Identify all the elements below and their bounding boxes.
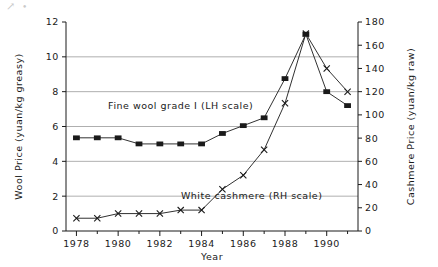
x-tick-label-1990: 1990	[313, 238, 340, 249]
marker-square-0-12	[323, 89, 330, 94]
series-line-0	[76, 34, 347, 144]
right-tick-label-0: 0	[365, 225, 372, 236]
left-tick-label-6: 6	[52, 121, 59, 132]
left-tick-label-8: 8	[52, 86, 59, 97]
x-tick-label-1982: 1982	[147, 238, 174, 249]
marker-cross-1-10	[282, 100, 288, 106]
series-annotation-1: White cashmere (RH scale)	[181, 190, 322, 201]
marker-square-0-5	[177, 142, 184, 147]
right-tick-label-80: 80	[365, 133, 378, 144]
right-tick-label-40: 40	[365, 179, 378, 190]
marker-cross-1-8	[240, 172, 246, 178]
x-tick-label-1986: 1986	[230, 238, 257, 249]
marker-square-0-13	[344, 103, 351, 108]
price-line-chart: 0246810120204060801001201401601801978198…	[0, 0, 438, 267]
series-annotation-0: Fine wool grade I (LH scale)	[108, 100, 253, 111]
x-tick-label-1978: 1978	[63, 238, 90, 249]
y2-axis-title: Cashmere Price (yuan/kg raw)	[405, 48, 416, 205]
right-tick-label-140: 140	[365, 63, 385, 74]
y-axis-title: Wool Price (yuan/kg greasy)	[13, 53, 24, 199]
right-tick-label-20: 20	[365, 202, 378, 213]
left-tick-label-4: 4	[52, 156, 59, 167]
marker-square-0-3	[136, 142, 143, 147]
right-tick-label-60: 60	[365, 156, 378, 167]
x-tick-label-1988: 1988	[272, 238, 299, 249]
marker-square-0-8	[240, 123, 247, 128]
x-tick-label-1984: 1984	[188, 238, 215, 249]
marker-square-0-2	[115, 135, 122, 140]
marker-square-0-6	[198, 142, 205, 147]
marker-square-0-10	[282, 76, 289, 81]
scan-artifact-mark: ↗	[6, 0, 15, 13]
marker-cross-1-12	[324, 65, 330, 71]
marker-cross-1-9	[261, 147, 267, 153]
marker-square-0-4	[156, 142, 163, 147]
marker-square-0-9	[261, 115, 268, 120]
left-tick-label-10: 10	[46, 51, 59, 62]
marker-square-0-1	[94, 135, 101, 140]
x-axis-title: Year	[200, 251, 223, 262]
marker-square-0-7	[219, 131, 226, 136]
left-tick-label-2: 2	[52, 191, 59, 202]
x-tick-label-1980: 1980	[105, 238, 132, 249]
right-tick-label-120: 120	[365, 86, 385, 97]
right-tick-label-180: 180	[365, 16, 385, 27]
left-tick-label-0: 0	[52, 225, 59, 236]
scan-artifact-dot: •	[22, 2, 27, 12]
left-tick-label-12: 12	[46, 16, 59, 27]
right-tick-label-100: 100	[365, 109, 385, 120]
right-tick-label-160: 160	[365, 40, 385, 51]
chart-figure: ↗ • 024681012020406080100120140160180197…	[0, 0, 438, 267]
marker-square-0-0	[73, 135, 80, 140]
